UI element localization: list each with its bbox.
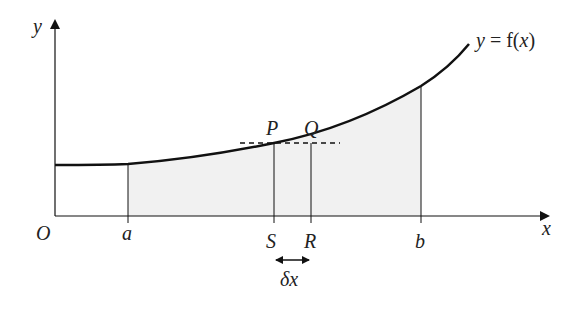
delta-x-label: δx bbox=[280, 268, 298, 290]
point-Q-label: Q bbox=[304, 117, 319, 139]
curve-label: y = f(x) bbox=[474, 29, 535, 52]
area-diagram: y x O a S R b P Q δx y = f(x) bbox=[0, 0, 572, 309]
point-b-label: b bbox=[415, 230, 425, 252]
point-R-label: R bbox=[303, 230, 316, 252]
origin-label: O bbox=[36, 222, 50, 244]
point-P-label: P bbox=[265, 117, 278, 139]
axis-y-label: y bbox=[31, 15, 42, 38]
point-a-label: a bbox=[122, 222, 132, 244]
axis-x-label: x bbox=[541, 217, 551, 239]
point-S-label: S bbox=[266, 230, 276, 252]
